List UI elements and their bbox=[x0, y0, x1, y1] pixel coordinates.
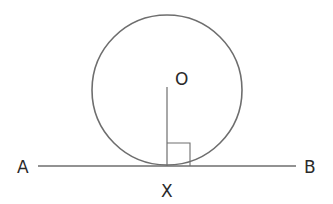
label-point-a: A bbox=[17, 157, 29, 177]
tangent-circle-diagram: O A B X bbox=[0, 0, 333, 204]
label-point-x: X bbox=[161, 181, 173, 201]
label-point-b: B bbox=[304, 157, 316, 177]
label-center-o: O bbox=[175, 69, 188, 89]
